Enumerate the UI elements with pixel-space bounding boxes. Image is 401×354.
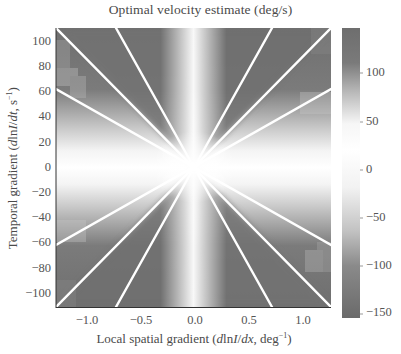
colorbar-tick: 0	[366, 162, 372, 177]
x-tick: −1.0	[67, 313, 107, 328]
y-axis-label: Temporal gradient (dlnI/dt, s−1)	[5, 38, 21, 298]
colorbar	[342, 28, 360, 318]
colorbar-tick: −100	[366, 258, 392, 273]
colorbar-tick: −50	[366, 210, 386, 225]
colorbar-tick: 100	[366, 65, 385, 80]
x-axis-label: Local spatial gradient (dlnI/dx, deg−1)	[56, 331, 332, 347]
colorbar-tick: −150	[366, 305, 392, 320]
x-tick: 0.5	[229, 313, 269, 328]
x-tick: 1.0	[283, 313, 323, 328]
x-tick: −0.5	[121, 313, 161, 328]
heatmap-field	[56, 28, 331, 307]
colorbar-tick: 50	[366, 114, 379, 129]
heatmap-plot	[0, 0, 401, 354]
x-tick: 0.0	[175, 313, 215, 328]
